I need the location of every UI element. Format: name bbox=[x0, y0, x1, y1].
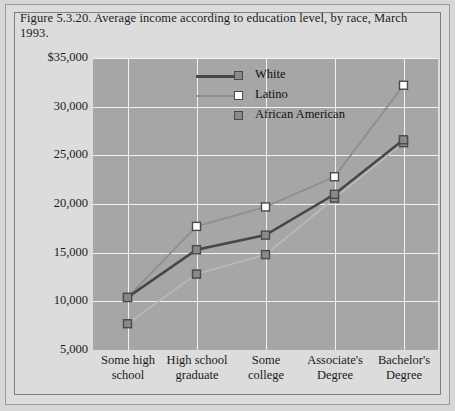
data-point-marker bbox=[193, 222, 201, 230]
legend-marker-african-american bbox=[234, 111, 243, 120]
legend-marker-white bbox=[234, 71, 243, 80]
x-axis-tick-label: Bachelor'sDegree bbox=[359, 353, 449, 382]
data-point-marker bbox=[331, 190, 339, 198]
legend-row: African American bbox=[196, 106, 386, 126]
plot-area: WhiteLatinoAfrican American bbox=[93, 58, 438, 350]
legend-marker-latino bbox=[234, 91, 243, 100]
y-axis-tick-label: $35,000 bbox=[2, 50, 88, 65]
y-axis-tick-label: 10,000 bbox=[2, 293, 88, 308]
data-point-marker bbox=[400, 136, 408, 144]
data-point-marker bbox=[262, 231, 270, 239]
data-point-marker bbox=[331, 173, 339, 181]
legend-row: Latino bbox=[196, 86, 386, 106]
data-point-marker bbox=[262, 251, 270, 259]
chart-legend: WhiteLatinoAfrican American bbox=[196, 66, 386, 126]
x-axis-tick-line: Bachelor's bbox=[359, 353, 449, 368]
data-point-marker bbox=[124, 293, 132, 301]
data-point-marker bbox=[193, 246, 201, 254]
y-axis-tick-label: 30,000 bbox=[2, 99, 88, 114]
x-axis-tick-line: Degree bbox=[359, 368, 449, 383]
legend-row: White bbox=[196, 66, 386, 86]
y-axis-tick-label: 5,000 bbox=[2, 342, 88, 357]
data-point-marker bbox=[400, 81, 408, 89]
legend-label: African American bbox=[255, 107, 345, 122]
data-point-marker bbox=[124, 320, 132, 328]
y-axis-tick-label: 25,000 bbox=[2, 147, 88, 162]
figure-frame: Figure 5.3.20. Average income according … bbox=[0, 0, 455, 411]
y-axis-tick-label: 15,000 bbox=[2, 245, 88, 260]
legend-label: White bbox=[255, 67, 286, 82]
series-line-white bbox=[128, 140, 404, 298]
data-point-marker bbox=[262, 203, 270, 211]
chart-title: Figure 5.3.20. Average income according … bbox=[20, 11, 435, 41]
legend-label: Latino bbox=[255, 87, 288, 102]
x-axis-labels: Some highschoolHigh schoolgraduateSomeco… bbox=[93, 353, 438, 398]
y-axis-tick-label: 20,000 bbox=[2, 196, 88, 211]
data-point-marker bbox=[193, 270, 201, 278]
y-axis-labels: $35,00030,00025,00020,00015,00010,0005,0… bbox=[0, 58, 88, 350]
